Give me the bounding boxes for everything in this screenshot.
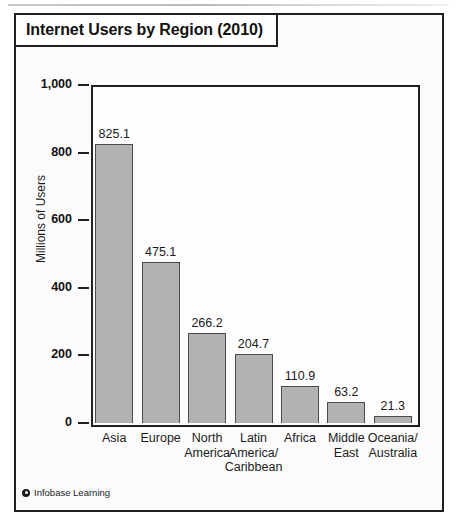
bar-group: 21.3: [374, 85, 412, 423]
y-axis-tick: [78, 152, 89, 154]
bar: [188, 333, 226, 423]
y-axis-tick-label: 0: [0, 415, 72, 429]
y-axis-tick: [78, 287, 89, 289]
bar-value-label: 63.2: [334, 385, 358, 399]
x-axis-category-line: Australia: [353, 446, 433, 461]
bar-value-label: 266.2: [191, 316, 222, 330]
y-axis-tick: [78, 219, 89, 221]
chart-title-box: Internet Users by Region (2010): [14, 13, 278, 47]
x-axis-category-label: Oceania/Australia: [353, 431, 433, 460]
y-axis-tick: [78, 354, 89, 356]
bar: [142, 262, 180, 423]
credit-text: Infobase Learning: [34, 487, 110, 498]
bar-value-label: 204.7: [238, 337, 269, 351]
x-axis-category-line: America/: [214, 446, 294, 461]
y-axis-tick-label: 200: [0, 347, 72, 361]
page-title: Internet Users by Region (2010): [26, 21, 263, 39]
bar-value-label: 21.3: [381, 399, 405, 413]
bar: [281, 386, 319, 423]
bar-series: 825.1475.1266.2204.7110.963.221.3: [91, 85, 416, 423]
bar-value-label: 110.9: [285, 369, 315, 383]
x-axis-category-line: Caribbean: [214, 460, 294, 475]
x-axis-category-line: Oceania/: [353, 431, 433, 446]
bar-value-label: 825.1: [99, 127, 130, 141]
bar-value-label: 475.1: [145, 245, 176, 259]
bar: [235, 354, 273, 423]
y-axis-tick-label: 800: [0, 145, 72, 159]
y-axis-tick-label: 600: [0, 212, 72, 226]
bar-group: 204.7: [235, 85, 273, 423]
bar-group: 266.2: [188, 85, 226, 423]
page-scan-line: [8, 4, 449, 6]
bar-group: 63.2: [327, 85, 365, 423]
bar-group: 825.1: [95, 85, 133, 423]
bar: [327, 402, 365, 423]
bar-group: 110.9: [281, 85, 319, 423]
y-axis-tick: [78, 422, 89, 424]
bar: [95, 144, 133, 423]
credit-line: Infobase Learning: [22, 487, 110, 498]
y-axis-tick-label: 1,000: [0, 77, 72, 91]
bar: [374, 416, 412, 423]
y-axis-tick: [78, 84, 89, 86]
bar-group: 475.1: [142, 85, 180, 423]
y-axis-tick-label: 400: [0, 280, 72, 294]
copyright-circle-icon: [22, 489, 30, 497]
